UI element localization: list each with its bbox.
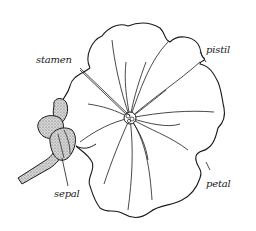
petal-veins — [80, 40, 214, 210]
label-stamen: stamen — [36, 54, 72, 65]
label-pistil: pistil — [206, 44, 230, 55]
stamen-cluster — [124, 112, 136, 124]
sepal-leader — [62, 158, 68, 186]
flower-diagram: stamen pistil sepal petal — [0, 0, 256, 231]
flower-illustration — [0, 0, 256, 231]
stamen-leader — [80, 68, 130, 116]
label-sepal: sepal — [54, 188, 80, 199]
label-petal: petal — [206, 178, 231, 189]
petal-outline — [76, 23, 225, 217]
sepal-and-stem — [18, 99, 96, 184]
petal-leader — [206, 162, 210, 170]
